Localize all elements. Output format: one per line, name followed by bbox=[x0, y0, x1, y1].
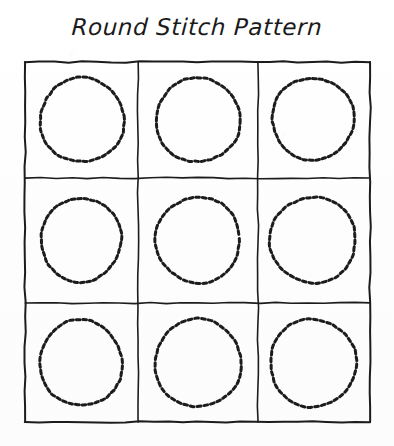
grid-cell-r2c3[interactable] bbox=[258, 178, 370, 303]
grid-cell-r1c1[interactable] bbox=[25, 62, 138, 178]
grid-cell-r3c3[interactable] bbox=[258, 303, 370, 422]
grid-cell-r1c3[interactable] bbox=[258, 62, 370, 178]
grid-cell-r3c1[interactable] bbox=[25, 303, 138, 422]
grid-cell-r1c2[interactable] bbox=[138, 62, 258, 178]
grid-cell-r2c1[interactable] bbox=[25, 178, 138, 303]
pattern-sheet: Round Stitch Pattern bbox=[0, 0, 394, 446]
grid-cell-r3c2[interactable] bbox=[138, 303, 258, 422]
grid-cell-r2c2[interactable] bbox=[138, 178, 258, 303]
